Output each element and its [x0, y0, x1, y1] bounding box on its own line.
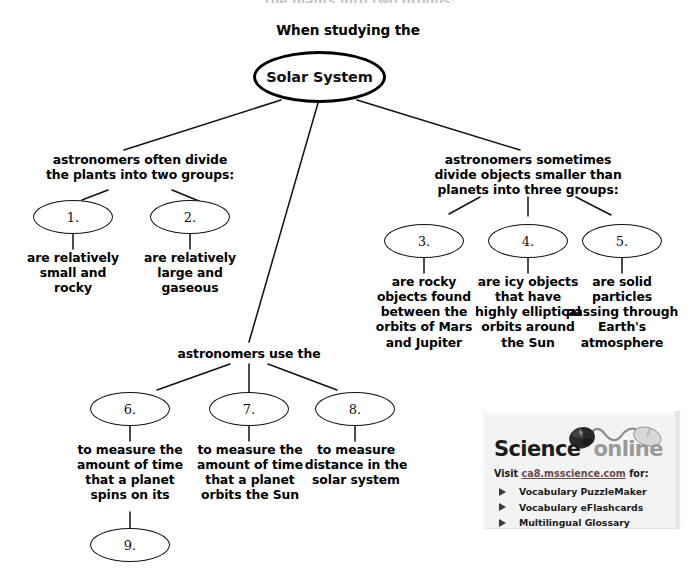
- triangle-bullet-icon: [499, 488, 506, 496]
- node-5-description-line-2: particles: [564, 289, 680, 304]
- promo-list-item[interactable]: Multilingual Glossary: [497, 515, 672, 529]
- promo-edge-right: [674, 411, 681, 529]
- node-9-oval[interactable]: 9.: [90, 528, 170, 562]
- branch-heading-planets-line-1: astronomers often divide: [30, 152, 250, 167]
- branch-heading-small-objects-line-2: divide objects smaller than: [412, 167, 644, 182]
- node-6-description-line-3: that a planet: [63, 472, 197, 487]
- promo-list-item[interactable]: Vocabulary eFlashcards: [497, 500, 672, 516]
- node-1-description-line-3: rocky: [20, 280, 126, 295]
- node-7-oval[interactable]: 7.: [209, 392, 289, 426]
- node-3-oval[interactable]: 3.: [384, 224, 464, 258]
- node-2-oval[interactable]: 2.: [150, 200, 230, 234]
- node-4-number: 4.: [522, 233, 534, 248]
- node-6-description-line-2: amount of time: [63, 457, 197, 472]
- node-3-number: 3.: [418, 233, 430, 248]
- node-1-oval[interactable]: 1.: [33, 200, 113, 234]
- node-8-description-line-3: solar system: [294, 472, 418, 487]
- node-4-oval[interactable]: 4.: [488, 224, 568, 258]
- promo-visit-line: Visit ca8.msscience.com for:: [494, 468, 649, 479]
- branch-heading-planets: astronomers often divide the plants into…: [30, 152, 250, 182]
- node-5-description: are solid particles passing through Eart…: [564, 274, 680, 350]
- promo-visit-url[interactable]: ca8.msscience.com: [521, 468, 625, 479]
- node-6-number: 6.: [124, 401, 136, 416]
- triangle-bullet-icon: [499, 519, 506, 527]
- page-title: When studying the: [243, 22, 453, 39]
- node-6-description-line-1: to measure the: [63, 442, 197, 457]
- branch-heading-planets-line-2: the plants into two groups:: [30, 167, 250, 182]
- node-5-description-line-3: passing through: [564, 304, 680, 319]
- node-3-description-line-4: orbits of Mars: [368, 319, 480, 334]
- promo-resource-list: Vocabulary PuzzleMaker Vocabulary eFlash…: [497, 484, 672, 529]
- node-1-description: are relatively small and rocky: [20, 250, 126, 295]
- node-2-description-line-1: are relatively: [137, 250, 243, 265]
- node-5-description-line-5: atmosphere: [564, 335, 680, 350]
- science-online-wordmark: Scienceonline: [494, 437, 663, 461]
- central-node-solar-system[interactable]: Solar System: [253, 51, 386, 103]
- node-8-description: to measure distance in the solar system: [294, 442, 418, 487]
- branch-heading-measures: astronomers use the: [169, 346, 329, 361]
- node-6-description: to measure the amount of time that a pla…: [63, 442, 197, 503]
- promo-list-item-label: Vocabulary PuzzleMaker: [519, 486, 647, 497]
- node-7-description-line-4: orbits the Sun: [183, 487, 317, 502]
- logo-primary-text: Science: [494, 437, 580, 461]
- node-2-description: are relatively large and gaseous: [137, 250, 243, 295]
- node-6-description-line-4: spins on its: [63, 487, 197, 502]
- branch-heading-small-objects: astronomers sometimes divide objects sma…: [412, 152, 644, 197]
- node-8-number: 8.: [349, 401, 361, 416]
- node-2-number: 2.: [184, 209, 196, 224]
- branch-heading-small-objects-line-1: astronomers sometimes: [412, 152, 644, 167]
- central-node-label: Solar System: [266, 69, 373, 85]
- node-8-description-line-1: to measure: [294, 442, 418, 457]
- node-2-description-line-2: large and: [137, 265, 243, 280]
- node-8-oval[interactable]: 8.: [315, 392, 395, 426]
- node-1-description-line-1: are relatively: [20, 250, 126, 265]
- node-1-number: 1.: [67, 209, 79, 224]
- promo-visit-prefix: Visit: [494, 468, 518, 479]
- node-3-description-line-1: are rocky: [368, 274, 480, 289]
- science-online-logo: Scienceonline: [494, 421, 672, 465]
- node-3-description-line-5: and Jupiter: [368, 335, 480, 350]
- node-5-description-line-4: Earth's: [564, 319, 680, 334]
- node-3-description-line-2: objects found: [368, 289, 480, 304]
- triangle-bullet-icon: [499, 503, 506, 511]
- promo-edge-top: [481, 411, 681, 416]
- promo-list-item-label: Vocabulary eFlashcards: [519, 502, 643, 513]
- science-online-promo-box: Scienceonline Visit ca8.msscience.com fo…: [481, 411, 681, 529]
- logo-secondary-text: online: [593, 437, 662, 461]
- node-5-oval[interactable]: 5.: [582, 224, 662, 258]
- node-8-description-line-2: distance in the: [294, 457, 418, 472]
- node-6-oval[interactable]: 6.: [90, 392, 170, 426]
- node-3-description-line-3: between the: [368, 304, 480, 319]
- branch-heading-small-objects-line-3: planets into three groups:: [412, 182, 644, 197]
- node-1-description-line-2: small and: [20, 265, 126, 280]
- branch-heading-measures-line-1: astronomers use the: [169, 346, 329, 361]
- node-9-number: 9.: [124, 537, 136, 552]
- node-3-description: are rocky objects found between the orbi…: [368, 274, 480, 350]
- node-5-description-line-1: are solid: [564, 274, 680, 289]
- node-2-description-line-3: gaseous: [137, 280, 243, 295]
- promo-list-item[interactable]: Vocabulary PuzzleMaker: [497, 484, 672, 500]
- node-5-number: 5.: [616, 233, 628, 248]
- node-7-number: 7.: [243, 401, 255, 416]
- promo-visit-suffix: for:: [629, 468, 648, 479]
- promo-edge-left: [481, 411, 486, 529]
- promo-list-item-label: Multilingual Glossary: [519, 517, 630, 528]
- concept-map-canvas: the plants into two groups:: [0, 0, 695, 577]
- cut-off-text-top: the plants into two groups:: [150, 0, 570, 3]
